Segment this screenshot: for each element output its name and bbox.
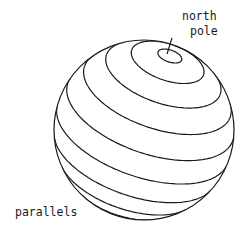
parallel-line: [62, 166, 186, 215]
north-pole-marker: [167, 38, 172, 54]
globe-diagram: north pole parallels: [0, 0, 247, 245]
parallel-line: [57, 106, 227, 184]
parallel-line: [131, 41, 204, 83]
parallels-label: parallels: [15, 205, 77, 219]
parallel-line: [54, 135, 211, 203]
north-pole-label-line2: pole: [190, 24, 218, 38]
parallel-line: [67, 78, 234, 161]
north-pole-label-line1: north: [182, 9, 217, 23]
parallels-group: [54, 41, 234, 220]
parallel-line: [158, 49, 182, 63]
